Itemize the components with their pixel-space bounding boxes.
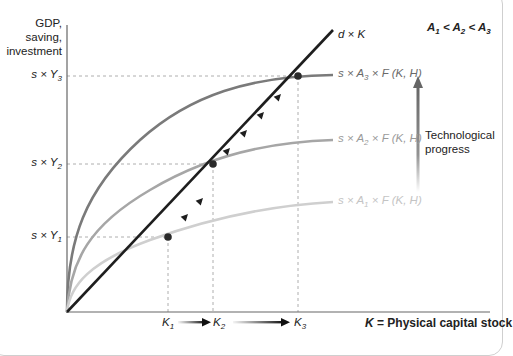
label-curve-a1: s × A1 × F (K, H)	[338, 194, 422, 209]
arrow-markers	[181, 92, 284, 222]
label-curve-a2: s × A2 × F (K, H)	[338, 132, 422, 147]
label-depreciation: d × K	[338, 28, 365, 40]
x-tick-3: K3	[294, 316, 306, 331]
curve-a3	[67, 75, 333, 312]
tech-progress-label: Technological progress	[425, 128, 495, 156]
y-axis-title: GDP, saving, investment	[6, 16, 62, 58]
x-tick-1: K1	[162, 316, 174, 331]
y-tick-1: s × Y1	[31, 229, 62, 244]
depreciation-line	[67, 30, 333, 312]
y-tick-2: s × Y2	[31, 156, 62, 171]
curve-a2	[67, 140, 333, 312]
y-tick-3: s × Y3	[31, 68, 62, 83]
x-tick-2: K2	[213, 316, 225, 331]
label-curve-a3: s × A3 × F (K, H)	[338, 67, 422, 82]
curve-a1	[67, 202, 333, 312]
technology-condition: A1 < A2 < A3	[427, 21, 491, 36]
x-axis-title: K = Physical capital stock	[365, 316, 512, 330]
